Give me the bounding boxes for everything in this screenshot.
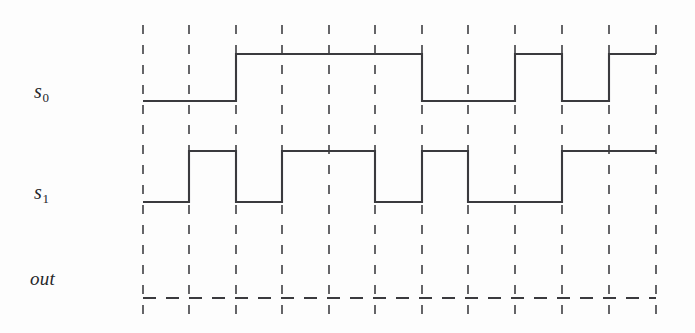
- waveform-label-s1-base: s: [34, 181, 42, 203]
- gridline-group: [143, 25, 656, 324]
- waveform-label-s0-base: s: [34, 80, 42, 102]
- waveform-label-s0-subscript: 0: [42, 90, 49, 105]
- waveform-label-out: out: [30, 268, 55, 290]
- waveform-s1: [143, 151, 656, 202]
- timing-diagram-canvas: [0, 0, 695, 333]
- waveform-label-s1-subscript: 1: [42, 191, 49, 206]
- waveform-s0: [143, 54, 656, 101]
- waveform-group: [143, 54, 656, 298]
- waveform-label-s0: s0: [34, 80, 49, 106]
- timing-diagram-page: s0 s1 out: [0, 0, 695, 333]
- waveform-label-s1: s1: [34, 181, 49, 207]
